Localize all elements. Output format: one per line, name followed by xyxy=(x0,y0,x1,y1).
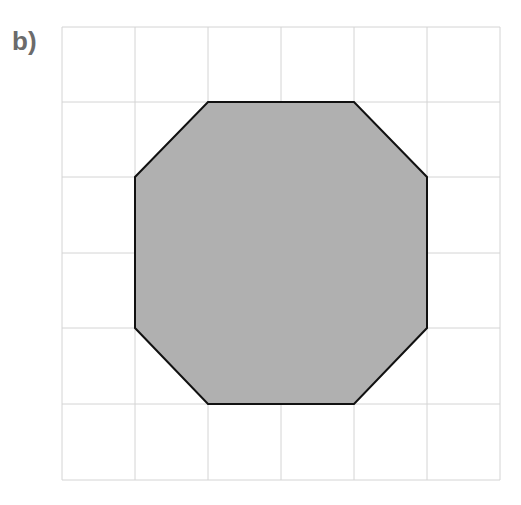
octagon-shape xyxy=(135,102,427,404)
grid-diagram xyxy=(0,0,521,505)
